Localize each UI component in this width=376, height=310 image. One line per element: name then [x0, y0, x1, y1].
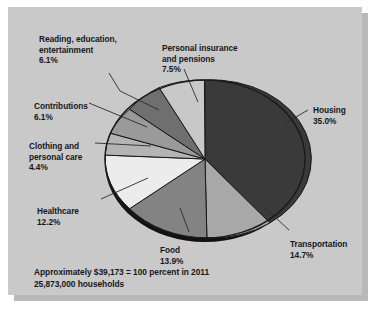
slice-label-personal-insurance-name: Personal insurance and pensions	[162, 43, 238, 63]
slice-label-housing-pct: 35.0%	[313, 116, 362, 126]
slice-label-housing-name: Housing	[313, 105, 346, 115]
slice-label-reading-name: Reading, education, entertainment	[39, 34, 117, 54]
slice-label-transportation-pct: 14.7%	[290, 250, 362, 260]
slice-label-transportation-name: Transportation	[290, 239, 347, 249]
chart-footnote: Approximately $39,173 = 100 percent in 2…	[34, 266, 209, 290]
slice-label-housing: Housing 35.0%	[313, 95, 362, 137]
slice-label-clothing-pct: 4.4%	[29, 162, 119, 172]
footnote-line-1: Approximately $39,173 = 100 percent in 2…	[34, 266, 209, 278]
pie-slices	[105, 80, 311, 238]
slice-label-healthcare-name: Healthcare	[37, 206, 79, 216]
chart-panel: Reading, education, entertainment 6.1% P…	[8, 7, 362, 295]
slice-label-transportation: Transportation 14.7%	[290, 229, 362, 271]
slice-label-personal-insurance: Personal insurance and pensions 7.5%	[162, 33, 262, 85]
slice-label-food-pct: 13.9%	[160, 256, 220, 266]
slice-label-clothing-name: Clothing and personal care	[29, 141, 82, 161]
slice-label-healthcare-pct: 12.2%	[37, 217, 127, 227]
slice-label-clothing: Clothing and personal care 4.4%	[29, 131, 119, 183]
slice-label-healthcare: Healthcare 12.2%	[37, 196, 127, 238]
slice-label-contributions-name: Contributions	[34, 101, 88, 111]
slice-label-food-name: Food	[160, 245, 180, 255]
slice-label-reading: Reading, education, entertainment 6.1%	[39, 24, 147, 76]
footnote-line-2: 25,873,000 households	[34, 278, 209, 290]
figure-root: Reading, education, entertainment 6.1% P…	[0, 0, 376, 310]
slice-label-contributions: Contributions 6.1%	[34, 91, 134, 133]
slice-label-reading-pct: 6.1%	[39, 55, 147, 65]
slice-label-contributions-pct: 6.1%	[34, 112, 134, 122]
slice-label-personal-insurance-pct: 7.5%	[162, 64, 262, 74]
